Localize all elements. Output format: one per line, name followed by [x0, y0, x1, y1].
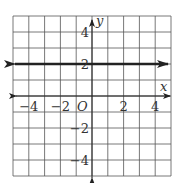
y-tick-label: 2: [81, 57, 89, 72]
y-tick-label: −4: [70, 153, 89, 168]
x-tick-label: 4: [151, 99, 159, 114]
coordinate-plane: x y O −4−224 42−2−4: [0, 0, 181, 183]
y-axis-label: y: [95, 13, 104, 28]
axes: [16, 20, 170, 178]
x-tick-label: −2: [51, 99, 70, 114]
origin-label: O: [77, 99, 88, 114]
x-axis-label: x: [160, 79, 168, 94]
y-tick-label: −2: [70, 121, 89, 136]
x-tick-label: −4: [19, 99, 38, 114]
x-tick-label: 2: [119, 99, 127, 114]
y-tick-label: 4: [81, 25, 89, 40]
